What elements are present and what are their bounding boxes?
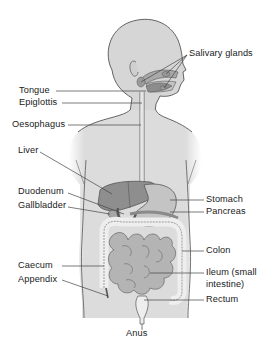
label-salivary-glands: Salivary glands bbox=[189, 48, 253, 59]
oesophagus bbox=[140, 92, 144, 185]
label-anus: Anus bbox=[126, 328, 147, 339]
label-tongue: Tongue bbox=[19, 85, 50, 96]
label-stomach: Stomach bbox=[206, 194, 243, 205]
label-caecum: Caecum bbox=[18, 260, 53, 271]
head bbox=[108, 19, 186, 112]
label-appendix: Appendix bbox=[18, 274, 57, 285]
label-oesophagus: Oesophagus bbox=[12, 119, 65, 130]
label-colon: Colon bbox=[206, 245, 231, 256]
label-gallbladder: Gallbladder bbox=[18, 200, 66, 211]
label-duodenum: Duodenum bbox=[18, 186, 64, 197]
label-epiglottis: Epiglottis bbox=[19, 97, 57, 108]
label-ileum-line2: intestine) bbox=[206, 279, 244, 290]
label-liver: Liver bbox=[18, 145, 38, 156]
label-ileum-line1: Ileum (small bbox=[206, 267, 257, 278]
label-pancreas: Pancreas bbox=[206, 206, 246, 217]
digestive-system-diagram: Salivary glands Tongue Epiglottis Oesoph… bbox=[0, 0, 270, 347]
label-rectum: Rectum bbox=[206, 294, 238, 305]
